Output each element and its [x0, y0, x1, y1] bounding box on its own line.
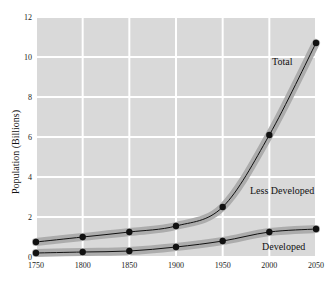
- data-point: [126, 229, 132, 235]
- data-point: [33, 250, 39, 256]
- label-total: Total: [272, 56, 293, 67]
- x-tick-label: 2050: [308, 261, 324, 270]
- data-point: [313, 40, 319, 46]
- data-point: [266, 132, 272, 138]
- x-tick-label: 2000: [261, 261, 277, 270]
- label-developed: Developed: [262, 241, 305, 252]
- data-point: [79, 249, 85, 255]
- y-tick-label: 8: [28, 93, 32, 102]
- x-tick-label: 1850: [121, 261, 137, 270]
- x-tick-label: 1950: [215, 261, 231, 270]
- y-tick-label: 4: [28, 173, 32, 182]
- data-point: [173, 244, 179, 250]
- data-point: [173, 223, 179, 229]
- y-tick-label: 2: [28, 213, 32, 222]
- data-point: [219, 204, 225, 210]
- x-tick-label: 1800: [75, 261, 91, 270]
- data-point: [266, 229, 272, 235]
- data-point: [219, 238, 225, 244]
- population-chart: 024681012 1750180018501900195020002050 P…: [0, 0, 329, 283]
- data-point: [313, 226, 319, 232]
- data-point: [126, 248, 132, 254]
- y-tick-label: 12: [24, 13, 32, 22]
- y-axis-ticks: 024681012: [24, 13, 32, 262]
- data-point: [33, 239, 39, 245]
- y-axis-label: Population (Billions): [10, 110, 22, 194]
- y-tick-label: 10: [24, 53, 32, 62]
- x-axis-ticks: 1750180018501900195020002050: [28, 261, 324, 270]
- y-tick-label: 6: [28, 133, 32, 142]
- x-tick-label: 1900: [168, 261, 184, 270]
- x-tick-label: 1750: [28, 261, 44, 270]
- label-less-developed: Less Developed: [250, 185, 314, 196]
- data-point: [79, 234, 85, 240]
